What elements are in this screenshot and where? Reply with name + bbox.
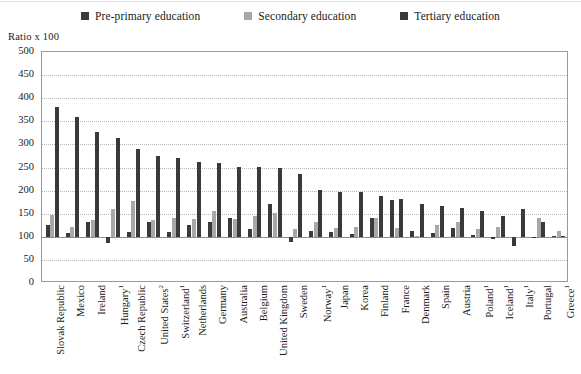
bar [334, 228, 338, 236]
bar-group [127, 52, 140, 281]
bar [431, 233, 435, 237]
bar [318, 190, 322, 237]
bar [237, 167, 241, 237]
bar-group [431, 52, 444, 281]
x-tick-label: Spain [440, 285, 451, 309]
bar [338, 192, 342, 237]
bar-group [390, 52, 403, 281]
x-tick-label: Ireland [96, 285, 107, 315]
bar [268, 204, 272, 237]
bar-group [66, 52, 79, 281]
bar [501, 216, 505, 237]
bar [253, 216, 257, 237]
gridline-50 [42, 260, 567, 261]
y-tick-400: 400 [0, 92, 34, 102]
x-axis-tick-labels: Slovak RepublicMexicoIrelandHungary1Czec… [41, 283, 568, 374]
legend-label: Tertiary education [414, 10, 500, 22]
gridline-400 [42, 98, 567, 99]
x-tick-label: Finland [379, 285, 390, 317]
bar [471, 235, 475, 236]
bar [46, 225, 50, 237]
bar [172, 218, 176, 237]
x-tick-label: Norway1 [319, 285, 333, 322]
bar [257, 167, 261, 237]
legend-label: Pre-primary education [95, 10, 200, 22]
x-tick-label: Czech Republic [136, 285, 147, 352]
bar-group [532, 52, 545, 281]
baseline-100 [42, 237, 567, 238]
bar [476, 229, 480, 237]
bar-group [248, 52, 261, 281]
bar [516, 237, 520, 238]
bar [399, 199, 403, 236]
square-marker-icon [400, 12, 408, 20]
y-tick-50: 50 [0, 254, 34, 264]
bar [309, 231, 313, 237]
x-tick-label: Belgium [258, 285, 269, 321]
bar [410, 231, 414, 237]
bar [273, 213, 277, 237]
bar [176, 158, 180, 237]
bar [95, 132, 99, 237]
bar [480, 211, 484, 236]
bar [440, 206, 444, 237]
x-tick-label: Iceland1 [501, 285, 515, 319]
y-tick-250: 250 [0, 162, 34, 172]
bar-group [106, 52, 119, 281]
bar [532, 237, 536, 238]
legend-item-2: Tertiary education [400, 10, 500, 22]
gridline-450 [42, 75, 567, 76]
bar-group [451, 52, 464, 281]
bar [541, 222, 545, 237]
bar-group [167, 52, 180, 281]
bar [233, 219, 237, 237]
x-tick-label: Australia [238, 285, 249, 324]
bar [451, 228, 455, 236]
bar [314, 222, 318, 237]
bar [147, 222, 151, 237]
legend-label: Secondary education [258, 10, 356, 22]
gridline-200 [42, 191, 567, 192]
bar-group [491, 52, 504, 281]
bar [415, 236, 419, 237]
bar [66, 233, 70, 237]
bar-group [471, 52, 484, 281]
bar [460, 208, 464, 237]
bar-group [410, 52, 423, 281]
y-tick-150: 150 [0, 208, 34, 218]
bar [136, 149, 140, 236]
bar-group [289, 52, 302, 281]
bar-group [268, 52, 281, 281]
bar-group [350, 52, 363, 281]
legend-item-1: Secondary education [244, 10, 356, 22]
bar [329, 232, 333, 237]
legend-item-0: Pre-primary education [81, 10, 200, 22]
bar [70, 227, 74, 237]
x-tick-label: Slovak Republic [55, 285, 66, 355]
bar [156, 156, 160, 237]
bar [537, 218, 541, 236]
bar [278, 168, 282, 236]
y-axis-title: Ratio x 100 [8, 31, 59, 42]
gridline-150 [42, 214, 567, 215]
x-tick-label: Portugal [542, 285, 553, 321]
x-tick-label: Germany [217, 285, 228, 324]
bar [75, 117, 79, 237]
bar [106, 237, 110, 243]
bar [420, 204, 424, 236]
bar [350, 234, 354, 237]
bar [127, 232, 131, 237]
bar [91, 220, 95, 237]
page-top-rule [0, 1, 581, 2]
square-marker-icon [244, 12, 252, 20]
bar-group [228, 52, 241, 281]
bar-group [370, 52, 383, 281]
x-tick-label: United Kingdom [278, 285, 289, 356]
bar-group [147, 52, 160, 281]
bar [208, 222, 212, 237]
bar [217, 163, 221, 236]
x-tick-label: Japan [339, 285, 350, 309]
y-tick-100: 100 [0, 231, 34, 241]
x-tick-label: Italy1 [521, 285, 535, 308]
bar [212, 211, 216, 236]
